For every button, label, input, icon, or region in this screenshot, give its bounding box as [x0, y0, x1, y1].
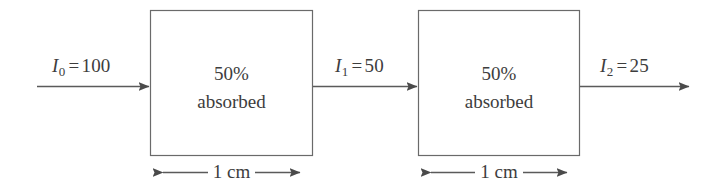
- slab-2-percent: 50%: [418, 60, 580, 88]
- intermediate-beam-symbol: I: [335, 55, 342, 76]
- incident-beam-value: 100: [81, 55, 110, 76]
- slab-1-text: 50% absorbed: [150, 60, 313, 115]
- slab-1-absorbed: absorbed: [150, 88, 313, 116]
- exit-beam-equals: =: [617, 55, 628, 76]
- incident-beam-symbol: I: [52, 55, 59, 76]
- exit-beam-symbol: I: [600, 55, 607, 76]
- intermediate-beam-equals: =: [352, 55, 363, 76]
- intermediate-beam-subscript: 1: [342, 64, 349, 79]
- diagram-canvas: [0, 0, 711, 191]
- slab-1-thickness-label: 1 cm: [208, 161, 255, 182]
- incident-beam-label: I0=100: [52, 56, 111, 78]
- exit-beam-value: 25: [629, 55, 648, 76]
- exit-beam-label: I2=25: [600, 56, 649, 78]
- incident-beam-subscript: 0: [59, 64, 66, 79]
- slab-2-thickness-label: 1 cm: [475, 161, 522, 182]
- beam-attenuation-diagram: I0=100 I1=50 I2=25 50% absorbed 50% abso…: [0, 0, 711, 191]
- incident-beam-equals: =: [69, 55, 80, 76]
- slab-2-thickness-label-wrap: 1 cm: [418, 162, 580, 181]
- intermediate-beam-label: I1=50: [335, 56, 384, 78]
- intermediate-beam-value: 50: [364, 55, 383, 76]
- slab-1-percent: 50%: [150, 60, 313, 88]
- slab-1-thickness-label-wrap: 1 cm: [150, 162, 313, 181]
- slab-2-text: 50% absorbed: [418, 60, 580, 115]
- exit-beam-subscript: 2: [607, 64, 614, 79]
- slab-2-absorbed: absorbed: [418, 88, 580, 116]
